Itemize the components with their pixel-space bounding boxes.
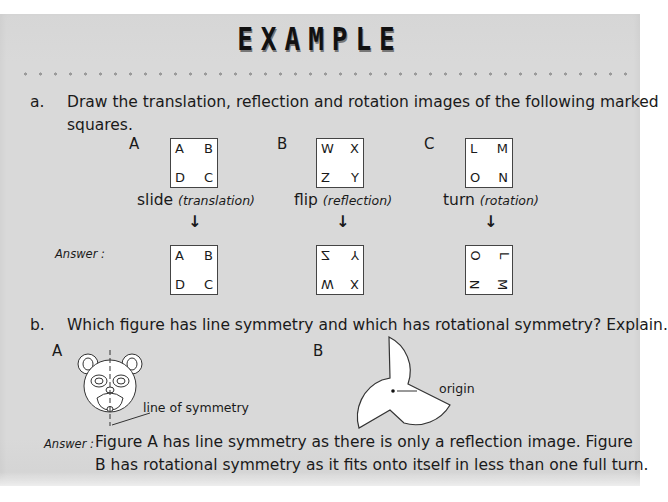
dotted-divider: [18, 72, 638, 76]
down-arrow-icon: ↓: [336, 212, 349, 231]
part-a-question-line2: squares.: [67, 116, 133, 134]
corner-label: X: [350, 142, 359, 155]
corner-label: Z: [321, 171, 330, 184]
figure-a-label: A: [52, 342, 62, 360]
origin-label: origin: [439, 381, 475, 396]
figure-a-label: A: [129, 135, 139, 153]
part-a-marker: a.: [30, 93, 44, 111]
corner-label: C: [204, 278, 213, 291]
corner-label: A: [175, 249, 184, 262]
part-a-question-line1: Draw the translation, reflection and rot…: [67, 93, 659, 111]
operation-note: (rotation): [480, 193, 539, 208]
corner-label: L: [470, 142, 477, 155]
figure-c-label: C: [424, 135, 434, 153]
operation-turn: turn (rotation): [443, 191, 539, 209]
square-b: W X Z Y: [316, 138, 364, 188]
part-b-answer-label: Answer :: [44, 437, 94, 451]
part-b-answer-line1: Figure A has line symmetry as there is o…: [95, 433, 633, 451]
answer-square-rotation: O L N M: [465, 245, 513, 295]
corner-label: B: [204, 142, 213, 155]
operation-name: flip: [294, 191, 318, 209]
corner-label: L: [498, 252, 511, 259]
corner-label: O: [470, 171, 480, 184]
corner-label: M: [496, 279, 509, 290]
operation-slide: slide (translation): [137, 191, 255, 209]
corner-label: Z: [321, 249, 330, 262]
corner-label: C: [204, 171, 213, 184]
corner-label: W: [321, 278, 334, 291]
corner-label: O: [469, 250, 482, 260]
down-arrow-icon: ↓: [484, 212, 497, 231]
corner-label: X: [350, 278, 359, 291]
operation-flip: flip (reflection): [294, 191, 392, 209]
operation-name: turn: [443, 191, 475, 209]
part-a-answer-label: Answer :: [55, 247, 105, 261]
operation-note: (translation): [178, 193, 255, 208]
corner-label: N: [468, 280, 481, 290]
corner-label: D: [175, 278, 185, 291]
corner-label: D: [175, 171, 185, 184]
operation-note: (reflection): [323, 193, 392, 208]
corner-label: Y: [351, 249, 359, 262]
figure-b-label: B: [313, 342, 323, 360]
answer-square-reflection: Z Y W X: [316, 245, 364, 295]
line-of-symmetry-label: line of symmetry: [143, 400, 249, 415]
corner-label: M: [497, 142, 508, 155]
corner-label: W: [321, 142, 334, 155]
example-title: EXAMPLE: [0, 20, 640, 58]
corner-label: N: [498, 171, 508, 184]
part-b-marker: b.: [30, 316, 45, 334]
square-a: A B D C: [170, 138, 218, 188]
down-arrow-icon: ↓: [188, 212, 201, 231]
corner-label: B: [204, 249, 213, 262]
part-b-answer-line2: B has rotational symmetry as it fits ont…: [95, 456, 649, 474]
figure-b-label: B: [277, 135, 287, 153]
part-b-question: Which figure has line symmetry and which…: [67, 316, 668, 334]
corner-label: Y: [351, 171, 359, 184]
bottom-margin: [0, 472, 640, 492]
corner-label: A: [175, 142, 184, 155]
answer-square-translation: A B D C: [170, 245, 218, 295]
square-c: L M O N: [465, 138, 513, 188]
operation-name: slide: [137, 191, 173, 209]
